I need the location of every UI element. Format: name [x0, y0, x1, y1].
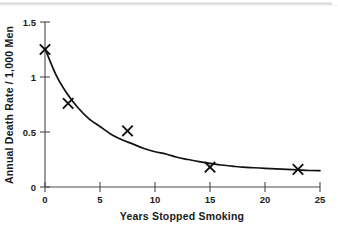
y-tick-labels: 1.5 1 0.5 0 [23, 17, 37, 193]
y-tick-label-1_5: 1.5 [23, 17, 37, 28]
data-point-marker [122, 126, 132, 136]
x-tick-label-10: 10 [150, 194, 161, 205]
x-tick-label-20: 20 [260, 194, 271, 205]
x-tick-labels: 0 5 10 15 20 25 [42, 194, 326, 205]
y-tick-label-1: 1 [31, 72, 37, 83]
x-tick-label-5: 5 [97, 194, 103, 205]
fitted-decay-curve [45, 48, 320, 170]
x-tick-label-25: 25 [315, 194, 326, 205]
axis-lines [45, 22, 320, 187]
scatter-chart: 1.5 1 0.5 0 0 5 10 15 20 25 Years Stoppe… [0, 0, 338, 230]
x-tick-label-0: 0 [42, 194, 47, 205]
y-tick-label-0: 0 [31, 182, 36, 193]
y-axis-title: Annual Death Rate / 1,000 Men [3, 26, 15, 184]
x-tick-label-15: 15 [205, 194, 216, 205]
y-tick-label-0_5: 0.5 [23, 127, 37, 138]
data-point-marker [63, 98, 73, 108]
x-axis-title: Years Stopped Smoking [120, 210, 244, 222]
chart-figure: 1.5 1 0.5 0 0 5 10 15 20 25 Years Stoppe… [0, 0, 338, 230]
